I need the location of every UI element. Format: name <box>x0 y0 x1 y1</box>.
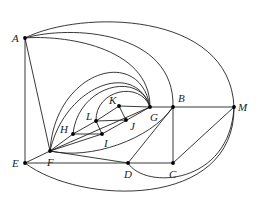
node-label-g: G <box>150 111 158 123</box>
node-a <box>23 36 27 40</box>
edge-a-b <box>25 32 173 107</box>
nodes-group <box>23 36 236 165</box>
edge-l-j <box>96 120 126 121</box>
node-k <box>117 104 121 108</box>
edges-group <box>25 22 234 191</box>
edge-l-i <box>96 121 102 134</box>
node-label-m: M <box>237 101 248 113</box>
node-label-j: J <box>130 120 136 132</box>
node-label-a: A <box>11 32 19 44</box>
node-h <box>71 132 75 136</box>
node-label-b: B <box>178 92 185 104</box>
edge-k-g <box>119 106 150 107</box>
graph-diagram: AEFHLKIJGBMDC <box>0 0 258 214</box>
node-f <box>48 149 52 153</box>
node-label-l: L <box>85 110 92 122</box>
edge-c-m <box>173 107 234 163</box>
edge-k-j <box>119 106 126 120</box>
node-label-c: C <box>169 168 177 180</box>
node-label-k: K <box>108 94 117 106</box>
node-g <box>148 105 152 109</box>
edge-a-g <box>25 38 150 107</box>
node-b <box>171 105 175 109</box>
node-i <box>100 132 104 136</box>
edge-f-g-arc1 <box>50 72 150 151</box>
node-label-i: I <box>103 137 109 149</box>
node-d <box>126 161 130 165</box>
node-l <box>94 119 98 123</box>
node-label-h: H <box>59 123 69 135</box>
node-e <box>23 161 27 165</box>
node-label-d: D <box>123 168 132 180</box>
edge-l-k <box>96 106 119 121</box>
node-label-e: E <box>11 157 19 169</box>
node-m <box>232 105 236 109</box>
edge-a-f <box>25 38 50 151</box>
edge-f-i <box>50 134 102 151</box>
node-c <box>171 161 175 165</box>
node-j <box>124 118 128 122</box>
node-label-f: F <box>46 156 54 168</box>
edge-d-m <box>128 107 234 178</box>
